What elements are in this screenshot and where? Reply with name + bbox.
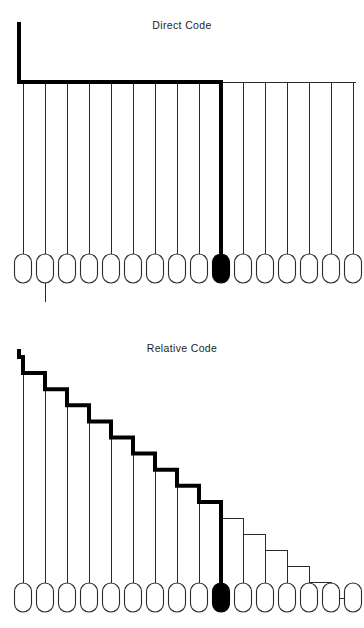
leaf-node[interactable] [147,583,164,612]
leaf-node[interactable] [37,583,54,612]
leaf-node[interactable] [235,254,252,283]
leaf-node[interactable] [279,583,296,612]
leaf-node[interactable] [191,254,208,283]
leaf-node[interactable] [345,254,362,283]
leaf-node[interactable] [191,583,208,612]
staircase-line-thin [19,357,353,599]
leaf-node[interactable] [279,254,296,283]
leaf-node[interactable] [147,254,164,283]
leaf-node[interactable] [125,254,142,283]
leaf-node[interactable] [323,583,340,612]
leaf-node[interactable] [235,583,252,612]
leaf-node[interactable] [301,254,318,283]
leaf-node[interactable] [37,254,54,283]
leaf-node[interactable] [125,583,142,612]
leaf-node-selected[interactable] [213,254,230,283]
leaf-node[interactable] [345,583,362,612]
leaf-node[interactable] [81,254,98,283]
direct-code-diagram [0,0,364,320]
figure-relative-code: Relative Code [0,320,364,628]
leaf-node[interactable] [169,254,186,283]
leaf-node[interactable] [257,254,274,283]
leaf-node[interactable] [103,583,120,612]
leaf-node[interactable] [81,583,98,612]
relative-code-diagram [0,320,364,628]
leaf-node[interactable] [59,583,76,612]
highlighted-path [19,351,221,589]
leaf-node[interactable] [103,254,120,283]
leaf-node-selected[interactable] [213,583,230,612]
leaf-node[interactable] [15,583,32,612]
leaf-node[interactable] [59,254,76,283]
leaf-node[interactable] [15,254,32,283]
leaf-node[interactable] [257,583,274,612]
leaf-node[interactable] [301,583,318,612]
highlighted-path [19,24,221,260]
leaf-node[interactable] [323,254,340,283]
leaf-node[interactable] [169,583,186,612]
figure-direct-code: Direct Code [0,0,364,320]
